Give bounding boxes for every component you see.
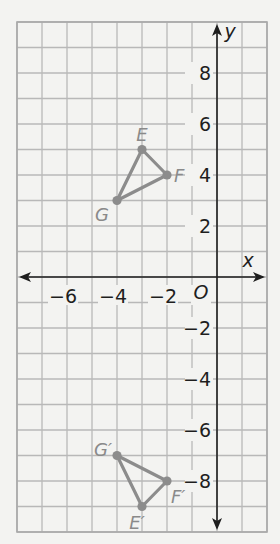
- x-tick-label: −2: [149, 285, 177, 307]
- vertex-point: [137, 145, 146, 154]
- vertex-point: [162, 476, 171, 485]
- x-tick-label: −4: [99, 285, 127, 307]
- vertex-point: [112, 196, 121, 205]
- y-tick-label: 4: [199, 164, 211, 186]
- origin-label: O: [194, 281, 209, 303]
- vertex-label: G: [95, 204, 109, 225]
- vertex-point: [137, 502, 146, 511]
- vertex-label: E′: [129, 512, 144, 533]
- coordinate-plane: x y −6−4−28642−2−4−6−8O EFGE′F′G′: [0, 0, 280, 544]
- y-tick-label: −2: [183, 317, 211, 339]
- y-tick-label: −4: [183, 368, 211, 390]
- x-axis-label: x: [241, 249, 254, 271]
- vertex-label: G′: [94, 439, 112, 460]
- vertex-label: F′: [171, 486, 185, 507]
- y-tick-label: 8: [199, 62, 211, 84]
- y-tick-label: −8: [183, 470, 211, 492]
- vertex-point: [162, 170, 171, 179]
- triangle-efg: EFG: [95, 124, 185, 225]
- triangle-e-f-g-: E′F′G′: [94, 439, 186, 533]
- vertex-point: [112, 451, 121, 460]
- y-axis-label: y: [223, 20, 236, 42]
- x-tick-label: −6: [49, 285, 77, 307]
- y-tick-label: 2: [199, 215, 211, 237]
- y-tick-label: −6: [183, 419, 211, 441]
- vertex-label: F: [174, 165, 185, 186]
- y-tick-label: 6: [199, 113, 211, 135]
- vertex-label: E: [136, 124, 148, 145]
